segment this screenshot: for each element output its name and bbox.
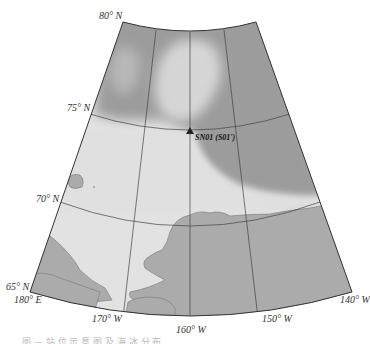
lat-label-65: 65° N	[6, 281, 30, 292]
lon-label-180e: 180° E	[14, 294, 42, 305]
lat-label-75: 75° N	[67, 102, 91, 113]
lon-label-170w: 170° W	[92, 313, 123, 324]
land-wrangel-island	[68, 174, 83, 188]
land-herald-island	[93, 186, 95, 188]
lon-label-140w: 140° W	[340, 294, 370, 305]
lon-label-150w: 150° W	[262, 313, 293, 324]
station-label: SN01 (S01')	[195, 133, 236, 142]
figure-caption: 图 — 站 位 示 意 图 及 海 冰 分 布	[22, 336, 352, 344]
lat-label-80: 80° N	[99, 10, 123, 21]
lon-label-160w: 160° W	[176, 324, 207, 335]
lat-label-70: 70° N	[36, 193, 60, 204]
